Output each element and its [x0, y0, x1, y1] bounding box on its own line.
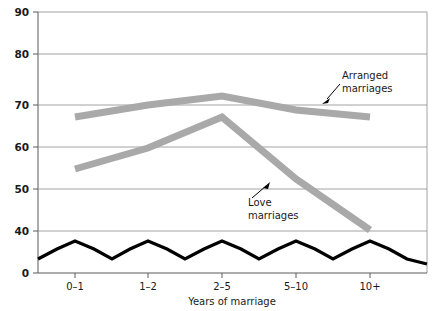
ytick-label-90: 90 — [14, 6, 29, 18]
x-axis-title: Years of marriage — [187, 296, 276, 307]
ytick-label-70: 70 — [14, 99, 29, 111]
ytick-label-40: 40 — [14, 225, 29, 237]
xtick-label-2-5: 2–5 — [213, 281, 231, 292]
arranged-marriages-annotation: Arranged marriages — [322, 70, 393, 104]
ytick-label-80: 80 — [14, 48, 29, 60]
x-tick-marks — [75, 273, 370, 278]
arranged-marriages-label-line1: Arranged — [342, 70, 388, 81]
xtick-label-10plus: 10+ — [359, 281, 380, 292]
love-marriages-label-line1: Love — [248, 197, 272, 208]
love-marriages-arrow-head — [263, 182, 270, 189]
love-marriages-annotation: Love marriages — [248, 182, 299, 221]
data-series — [75, 96, 370, 230]
xtick-label-0-1: 0–1 — [66, 281, 84, 292]
xtick-label-1-2: 1–2 — [139, 281, 157, 292]
arranged-marriages-arrow-head — [322, 98, 330, 104]
ytick-label-0: 0 — [22, 267, 29, 279]
arranged-marriages-label-line2: marriages — [342, 83, 393, 94]
xtick-label-5-10: 5–10 — [284, 281, 308, 292]
ytick-label-50: 50 — [14, 183, 29, 195]
y-tick-labels: 90 80 70 60 50 40 0 — [14, 6, 29, 279]
axis-break-zigzag — [38, 241, 427, 264]
ytick-label-60: 60 — [14, 141, 29, 153]
arranged-marriages-arrow-shaft — [327, 84, 340, 99]
y-tick-marks — [33, 12, 38, 273]
plot-frame — [38, 12, 427, 273]
love-marriages-label-line2: marriages — [248, 210, 299, 221]
chart-container: 90 80 70 60 50 40 0 0–1 1–2 2–5 — [0, 0, 436, 311]
line-chart: 90 80 70 60 50 40 0 0–1 1–2 2–5 — [0, 0, 436, 311]
series-line-love-marriages — [75, 117, 370, 230]
x-tick-labels: 0–1 1–2 2–5 5–10 10+ — [66, 281, 380, 292]
